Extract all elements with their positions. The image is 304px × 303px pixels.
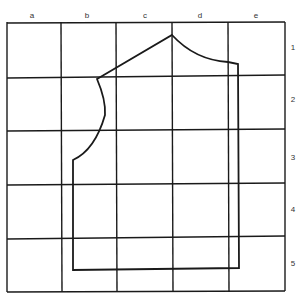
grid-vline-2 (116, 22, 117, 292)
row-label-1: 1 (291, 43, 296, 52)
grid-hline-0 (7, 22, 285, 23)
column-label-b: b (85, 11, 90, 20)
row-labels: 1 2 3 4 5 (291, 43, 296, 268)
row-label-4: 4 (291, 205, 296, 214)
row-label-5: 5 (291, 259, 296, 268)
column-label-c: c (143, 11, 147, 20)
column-labels: a b c d e (30, 11, 259, 20)
row-label-3: 3 (291, 153, 296, 162)
grid-lines (7, 22, 285, 292)
grid-vline-3 (172, 22, 173, 292)
column-label-e: e (254, 11, 259, 20)
grid-hline-2 (7, 129, 285, 131)
grid-vline-1 (61, 22, 62, 292)
grid-hline-4 (7, 236, 285, 239)
grid-hline-3 (7, 183, 285, 185)
grid-hline-1 (7, 75, 285, 78)
bodice-pattern-outline (73, 35, 239, 270)
column-label-a: a (30, 11, 35, 20)
grid-hline-5 (7, 291, 285, 292)
grid-diagram: a b c d e 1 2 3 4 5 (0, 0, 304, 303)
column-label-d: d (198, 11, 202, 20)
row-label-2: 2 (291, 95, 296, 104)
